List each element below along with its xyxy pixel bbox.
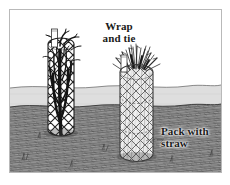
label-pack-line1: Pack with: [161, 126, 222, 138]
illustration-stage: Wrap and tie Pack with straw: [0, 0, 230, 185]
label-wrap-line1: Wrap: [88, 21, 150, 33]
label-pack-with-straw: Pack with straw: [161, 126, 222, 149]
label-wrap-and-tie: Wrap and tie: [88, 21, 150, 44]
illustration-frame: Wrap and tie Pack with straw: [9, 9, 222, 173]
label-pack-line2: straw: [161, 138, 222, 150]
label-wrap-line2: and tie: [88, 33, 150, 45]
wire-cage-with-straw: [113, 44, 160, 166]
straw-cage-stake: [121, 55, 127, 72]
